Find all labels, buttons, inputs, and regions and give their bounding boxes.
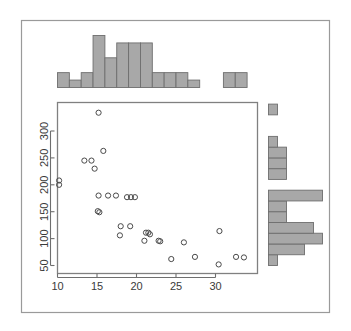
top-histogram-bar [129,43,141,88]
top-histogram-bar [81,73,93,88]
right-histogram-bar [269,222,314,233]
right-histogram-bar [269,255,278,266]
right-histogram-bar [269,212,287,223]
top-histogram-bar [223,73,235,88]
right-histogram-bar [269,233,323,244]
right-histogram-bar [269,169,287,180]
x-axis-tick-label: 25 [170,280,182,292]
x-axis-tick-label: 30 [209,280,221,292]
top-histogram-bar [58,73,70,88]
top-histogram-bar [117,43,129,88]
y-axis-tick-label: 300 [38,122,50,140]
top-histogram-bar [105,58,117,88]
y-axis-tick-label: 50 [38,259,50,271]
top-histogram-bar [176,73,188,88]
right-histogram-bar [269,104,278,115]
right-histogram-bar [269,190,323,201]
right-histogram-bar [269,244,305,255]
right-histogram-bar [269,201,287,212]
y-axis-tick-label: 150 [38,203,50,221]
y-axis-tick-label: 250 [38,149,50,167]
x-axis-tick-label: 15 [91,280,103,292]
figure-root: 1015202530 50100150200250300 [0,0,351,331]
top-histogram-bar [140,43,152,88]
top-histogram-bar [235,73,247,88]
top-histogram-bar [69,80,81,87]
top-histogram-bar [93,36,105,88]
right-histogram-bar [269,136,278,147]
top-histogram-bar [164,73,176,88]
x-axis-tick-label: 20 [130,280,142,292]
y-axis-tick-label: 100 [38,229,50,247]
right-histogram-bar [269,147,287,158]
y-axis-tick-label: 200 [38,176,50,194]
top-histogram-bar [188,80,200,87]
right-histogram-bar [269,158,287,169]
top-histogram-bar [152,73,164,88]
x-axis-tick-label: 10 [51,280,63,292]
scatter-histogram-figure: 1015202530 50100150200250300 [0,0,351,331]
